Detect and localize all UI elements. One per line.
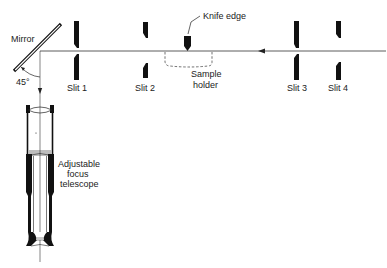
mirror bbox=[14, 24, 61, 71]
slit-3 bbox=[294, 21, 299, 80]
sample-holder-label-line1: Sample bbox=[191, 69, 222, 79]
slit-1 bbox=[74, 21, 79, 80]
mirror-label: Mirror bbox=[11, 34, 35, 44]
slit-2-label: Slit 2 bbox=[135, 83, 155, 93]
beam-down-arrow-icon bbox=[38, 88, 42, 94]
slit-1-label: Slit 1 bbox=[67, 83, 87, 93]
slit-4 bbox=[336, 21, 341, 80]
sample-holder bbox=[165, 52, 212, 67]
knife-edge bbox=[184, 36, 191, 51]
sample-holder-label-line2: holder bbox=[193, 80, 218, 90]
angle-label: 45° bbox=[16, 77, 30, 87]
telescope-label-line2: focus bbox=[67, 169, 89, 179]
knife-edge-label: Knife edge bbox=[203, 11, 246, 21]
optical-setup-diagram: Mirror 45° Slit 1 Slit 2 Knife edge Samp… bbox=[0, 0, 387, 268]
slit-2 bbox=[143, 22, 148, 78]
slit-3-label: Slit 3 bbox=[287, 83, 307, 93]
slit-4-label: Slit 4 bbox=[328, 83, 348, 93]
knife-edge-leader bbox=[188, 16, 200, 34]
telescope-label-line1: Adjustable bbox=[58, 159, 100, 169]
beam-direction-arrow-icon bbox=[258, 49, 265, 54]
telescope-label-line3: telescope bbox=[60, 179, 99, 189]
